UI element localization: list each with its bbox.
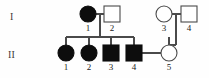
symbol-I-3-female-unaffected [156,6,172,22]
individual-number-I-1: 1 [86,23,91,33]
pedigree-canvas: I II 123412345 [0,0,209,78]
individual-number-II-3: 3 [109,62,114,72]
pedigree-chart: I II 123412345 [0,0,209,78]
individual-number-I-3: 3 [162,23,167,33]
symbol-I-2-male-unaffected [104,6,120,22]
individual-number-I-2: 2 [110,23,115,33]
symbol-I-1-female-affected [80,6,96,22]
symbol-II-1-female-affected [58,45,74,61]
individual-number-I-4: 4 [187,23,192,33]
individual-number-II-2: 2 [87,62,92,72]
symbol-II-4-male-affected [126,45,142,61]
individual-number-II-5: 5 [167,62,172,72]
symbol-II-2-female-affected [81,45,97,61]
symbol-II-3-male-affected [103,45,119,61]
symbol-II-5-female-unaffected [161,45,177,61]
generation-labels: I II [8,11,15,60]
generation-label-2: II [8,49,15,60]
generation-label-1: I [10,11,14,22]
individual-number-II-1: 1 [64,62,69,72]
individual-number-II-4: 4 [132,62,137,72]
symbol-I-4-male-unaffected [181,6,197,22]
